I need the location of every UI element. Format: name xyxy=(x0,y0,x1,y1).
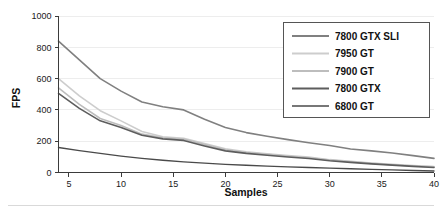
x-tick-label-25: 25 xyxy=(273,179,283,189)
legend-label-7800-gtx-sli[interactable]: 7800 GTX SLI xyxy=(335,31,399,42)
y-tick-label-800: 800 xyxy=(36,43,51,53)
y-axis-title: FPS xyxy=(10,88,22,108)
x-tick-label-35: 35 xyxy=(377,179,387,189)
y-tick-label-400: 400 xyxy=(36,105,51,115)
x-tick-label-10: 10 xyxy=(116,179,126,189)
y-tick-label-200: 200 xyxy=(36,136,51,146)
y-tick-label-600: 600 xyxy=(36,74,51,84)
x-tick-label-15: 15 xyxy=(168,179,178,189)
legend-label-7950-gt[interactable]: 7950 GT xyxy=(335,48,374,59)
legend-label-7800-gtx[interactable]: 7800 GTX xyxy=(335,83,381,94)
x-tick-label-5: 5 xyxy=(66,179,71,189)
legend-label-6800-gt[interactable]: 6800 GT xyxy=(335,101,374,112)
x-tick-label-30: 30 xyxy=(325,179,335,189)
y-axis-ticks: 02004006008001000 xyxy=(31,11,58,178)
legend[interactable]: 7800 GTX SLI7950 GT7900 GT7800 GTX6800 G… xyxy=(284,23,430,118)
chart-figure: 02004006008001000 510152025303540 FPS Sa… xyxy=(0,0,442,210)
y-tick-label-1000: 1000 xyxy=(31,11,51,21)
x-axis-title: Samples xyxy=(224,186,267,198)
x-tick-label-40: 40 xyxy=(429,179,439,189)
fps-vs-samples-line-chart: 02004006008001000 510152025303540 FPS Sa… xyxy=(0,0,442,210)
y-tick-label-0: 0 xyxy=(46,168,51,178)
legend-label-7900-gt[interactable]: 7900 GT xyxy=(335,66,374,77)
